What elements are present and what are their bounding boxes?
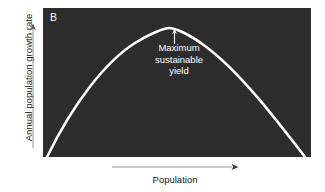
- plot-panel: B Maximum sustainable yield: [43, 8, 311, 157]
- msy-annotation-line-2: sustainable: [140, 54, 218, 66]
- msy-annotation: Maximum sustainable yield: [140, 42, 218, 77]
- arrow-up-icon: [26, 22, 40, 148]
- x-axis-title: Population: [105, 174, 245, 185]
- msy-annotation-line-3: yield: [140, 65, 218, 77]
- y-axis-group: Annual population growth rate: [0, 0, 43, 170]
- arrow-right-icon: [110, 160, 240, 174]
- msy-annotation-line-1: Maximum: [140, 42, 218, 54]
- figure-root: Annual population growth rate B Maximum …: [0, 0, 325, 192]
- x-axis-group: Population: [110, 160, 250, 192]
